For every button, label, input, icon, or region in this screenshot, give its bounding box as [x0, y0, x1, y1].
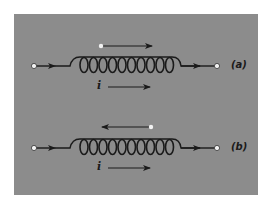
current-label-a: i	[97, 79, 101, 92]
field-arrow-origin-dot	[149, 125, 153, 129]
lead-right	[172, 139, 195, 148]
subfigure-a	[31, 44, 219, 87]
current-label-b: i	[97, 160, 101, 173]
subfigure-b	[31, 125, 219, 168]
lead-right	[172, 57, 195, 66]
lead-left	[55, 57, 80, 66]
inductor-coil	[80, 139, 174, 155]
subfigure-label-a: (a)	[231, 59, 247, 70]
lead-left	[55, 139, 80, 148]
inductor-diagram	[0, 0, 273, 207]
terminal-right	[214, 145, 219, 150]
subfigure-label-b: (b)	[231, 141, 247, 152]
inductor-coil	[80, 57, 174, 73]
terminal-right	[214, 63, 219, 68]
terminal-left	[31, 145, 36, 150]
terminal-left	[31, 63, 36, 68]
field-arrow-origin-dot	[99, 44, 103, 48]
